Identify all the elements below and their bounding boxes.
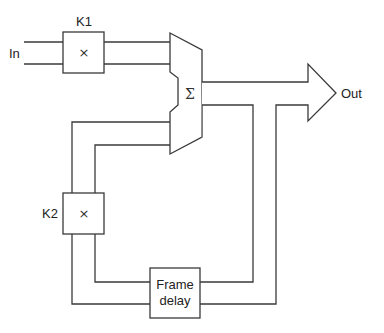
k2-to-delay-bus [72,234,150,304]
multiply-icon: × [79,45,90,60]
k1-label: K1 [76,14,92,29]
output-arrow [200,64,336,304]
output-label: Out [341,86,362,101]
k1-multiplier-block: × [63,32,104,73]
frame-delay-label-line1: Frame [156,277,194,292]
frame-delay-label-line2: delay [159,293,191,308]
k2-multiplier-block: × [63,193,104,234]
block-diagram: In × K1 Σ Out × K2 Frame delay [0,0,384,333]
feedback-bus [72,122,170,193]
k1-to-summer-bus [104,42,170,64]
input-label: In [9,46,20,61]
input-bus [24,42,63,64]
frame-delay-block: Frame delay [150,268,200,318]
multiply-icon: × [79,206,90,221]
sigma-icon: Σ [185,86,195,102]
k2-label: K2 [42,206,58,221]
